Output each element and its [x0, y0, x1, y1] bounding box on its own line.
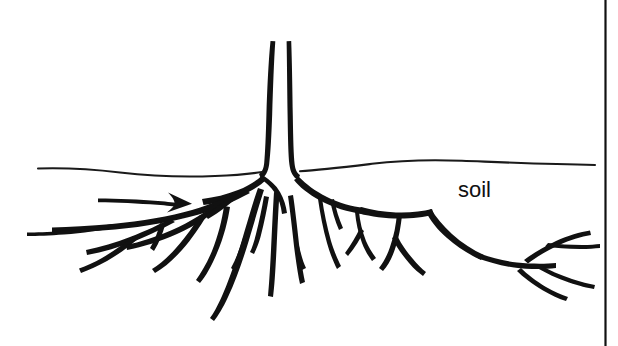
- background-plate: [0, 0, 618, 346]
- figure-container: soil: [0, 0, 618, 346]
- soil-label: soil: [458, 177, 491, 202]
- root-system-diagram: soil: [0, 0, 618, 346]
